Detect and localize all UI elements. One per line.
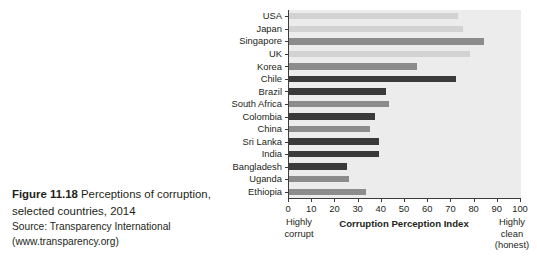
category-label: Korea [257, 61, 282, 73]
annotation-right-line3: (honest) [488, 239, 536, 251]
x-axis-tick-label: 20 [329, 203, 339, 214]
category-tick [285, 104, 289, 105]
annotation-highly-corrupt: Highly corrupt [276, 216, 322, 239]
x-axis-tick-label: 50 [399, 203, 409, 214]
figure-container: USAJapanSingaporeUKKoreaChileBrazilSouth… [0, 0, 537, 265]
caption-title-line2: selected countries, 2014 [12, 203, 270, 220]
x-axis-tick [404, 198, 405, 202]
category-tick [285, 91, 289, 92]
x-axis-tick-label: 10 [306, 203, 316, 214]
category-tick [285, 154, 289, 155]
category-label: Brazil [259, 86, 282, 98]
bar [289, 101, 389, 107]
caption-source-url: (www.transparency.org) [12, 235, 270, 250]
figure-number: Figure 11.18 [12, 188, 78, 200]
x-axis-tick [520, 198, 521, 202]
category-tick [285, 54, 289, 55]
category-label: China [258, 123, 283, 135]
bar [289, 176, 349, 182]
x-axis-tick [381, 198, 382, 202]
x-axis-tick [334, 198, 335, 202]
bar [289, 38, 484, 44]
category-tick [285, 129, 289, 130]
annotation-right-line2: clean [488, 228, 536, 240]
bar [289, 138, 379, 144]
x-axis-tick-label: 90 [492, 203, 502, 214]
x-axis-tick-label: 40 [376, 203, 386, 214]
caption-title-line1: Figure 11.18 Perceptions of corruption, [12, 186, 270, 203]
category-label: Uganda [249, 173, 282, 185]
category-label: India [262, 148, 282, 160]
x-axis-tick-label: 30 [352, 203, 362, 214]
x-axis-tick [358, 198, 359, 202]
x-axis-tick [311, 198, 312, 202]
caption-source: Source: Transparency International [12, 220, 270, 235]
x-axis-tick [497, 198, 498, 202]
x-axis-tick-label: 60 [422, 203, 432, 214]
category-tick [285, 41, 289, 42]
bar [289, 126, 370, 132]
category-label: USA [263, 10, 282, 22]
category-tick [285, 192, 289, 193]
category-label: UK [269, 48, 282, 60]
annotation-left-line2: corrupt [276, 228, 322, 240]
caption-title-text: Perceptions of corruption, [78, 188, 211, 200]
category-label: Singapore [239, 35, 282, 47]
bar [289, 51, 470, 57]
x-axis-tick [288, 198, 289, 202]
category-label: Japan [256, 23, 282, 35]
annotation-right-line1: Highly [488, 216, 536, 228]
category-tick [285, 16, 289, 17]
x-axis-tick [474, 198, 475, 202]
category-tick [285, 142, 289, 143]
bar [289, 26, 463, 32]
bar [289, 151, 379, 157]
plot-area [288, 10, 521, 198]
bar [289, 189, 366, 195]
bar [289, 63, 417, 69]
category-tick [285, 79, 289, 80]
figure-caption: Figure 11.18 Perceptions of corruption, … [12, 186, 270, 249]
bar [289, 113, 375, 119]
bar [289, 13, 458, 19]
category-tick [285, 167, 289, 168]
category-label: Bangladesh [232, 161, 282, 173]
bar [289, 163, 347, 169]
category-label: South Africa [231, 98, 282, 110]
annotation-left-line1: Highly [276, 216, 322, 228]
x-axis-title: Corruption Perception Index [288, 218, 520, 229]
annotation-highly-clean: Highly clean (honest) [488, 216, 536, 251]
x-axis-tick [450, 198, 451, 202]
category-label: Chile [261, 73, 282, 85]
x-axis-tick [427, 198, 428, 202]
category-axis-labels: USAJapanSingaporeUKKoreaChileBrazilSouth… [196, 10, 282, 198]
category-tick [285, 179, 289, 180]
category-tick [285, 29, 289, 30]
x-axis-tick-label: 80 [468, 203, 478, 214]
category-label: Sri Lanka [242, 136, 282, 148]
x-axis-tick-label: 100 [512, 203, 528, 214]
bar [289, 76, 456, 82]
category-tick [285, 117, 289, 118]
x-axis-tick-label: 0 [285, 203, 290, 214]
category-tick [285, 66, 289, 67]
x-axis-tick-label: 70 [445, 203, 455, 214]
bar [289, 88, 386, 94]
category-label: Colombia [242, 111, 282, 123]
